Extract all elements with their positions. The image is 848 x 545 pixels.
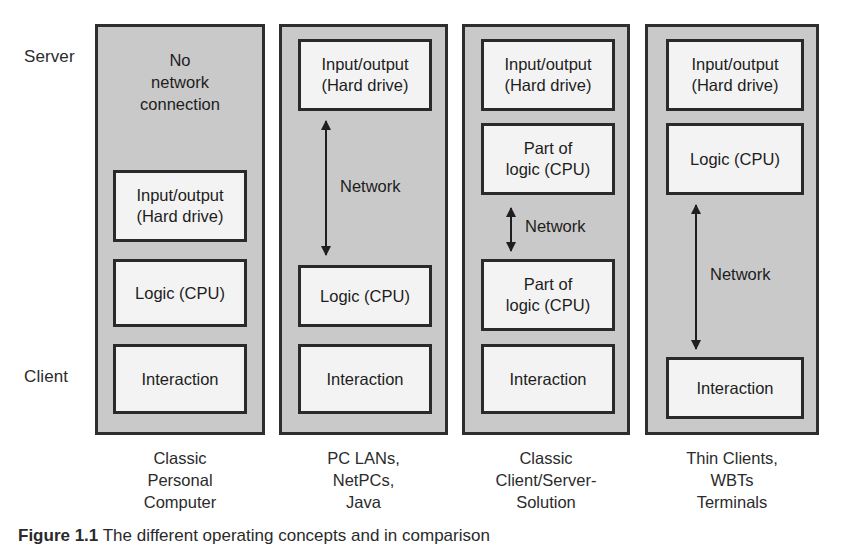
caption-line: PC LANs,	[279, 447, 448, 469]
block-line: Input/output	[504, 54, 591, 75]
block-interaction: Interaction	[113, 344, 247, 414]
block-interaction: Interaction	[298, 344, 432, 414]
block-part-of-logic-cpu-server: Part of logic (CPU)	[481, 123, 615, 195]
block-line: Input/output	[136, 185, 223, 206]
block-part-of-logic-cpu-client: Part of logic (CPU)	[481, 259, 615, 331]
architecture-column-pc-lans-netpcs-java: Input/output (Hard drive) Network Logic …	[279, 24, 448, 435]
caption-line: Client/Server-	[462, 469, 630, 491]
architecture-column-classic-personal-computer: No network connection Input/output (Hard…	[95, 24, 265, 435]
block-line: logic (CPU)	[506, 159, 590, 180]
block-line: Interaction	[509, 369, 586, 390]
column-caption-classic-personal-computer: Classic Personal Computer	[95, 447, 265, 513]
architecture-column-classic-client-server-solution: Input/output (Hard drive) Part of logic …	[462, 24, 630, 435]
arrow-shaft	[325, 121, 327, 255]
architecture-column-thin-clients-wbts-terminals: Input/output (Hard drive) Logic (CPU) Ne…	[645, 24, 819, 435]
diagram-canvas: Server Client No network connection Inpu…	[0, 0, 848, 545]
block-input-output-hard-drive: Input/output (Hard drive)	[113, 170, 247, 242]
network-arrow	[320, 121, 332, 255]
network-arrow	[505, 208, 517, 251]
block-line: Interaction	[141, 369, 218, 390]
network-arrow	[690, 205, 702, 349]
row-label-server: Server	[24, 47, 75, 67]
caption-line: Classic	[462, 447, 630, 469]
caption-line: WBTs	[645, 469, 819, 491]
block-line: Part of	[524, 138, 573, 159]
block-line: No	[98, 49, 262, 71]
arrow-shaft	[695, 205, 697, 349]
block-logic-cpu: Logic (CPU)	[298, 265, 432, 327]
network-arrow-label: Network	[340, 177, 401, 196]
caption-line: Computer	[95, 491, 265, 513]
block-line: (Hard drive)	[691, 75, 778, 96]
column-caption-thin-clients-wbts-terminals: Thin Clients, WBTs Terminals	[645, 447, 819, 513]
caption-line: NetPCs,	[279, 469, 448, 491]
arrow-head-up	[506, 207, 516, 217]
block-line: Logic (CPU)	[320, 286, 410, 307]
block-line: Interaction	[326, 369, 403, 390]
block-line: (Hard drive)	[504, 75, 591, 96]
block-input-output-hard-drive: Input/output (Hard drive)	[481, 39, 615, 111]
block-line: Part of	[524, 274, 573, 295]
block-line: network	[98, 71, 262, 93]
arrow-head-down	[321, 246, 331, 256]
arrow-head-down	[506, 242, 516, 252]
caption-line: Terminals	[645, 491, 819, 513]
block-line: connection	[98, 93, 262, 115]
block-line: Logic (CPU)	[135, 283, 225, 304]
figure-caption-text: The different operating concepts and in …	[103, 526, 490, 545]
row-label-client: Client	[24, 367, 68, 387]
block-input-output-hard-drive: Input/output (Hard drive)	[666, 39, 804, 111]
block-interaction: Interaction	[481, 344, 615, 414]
caption-line: Solution	[462, 491, 630, 513]
block-line: (Hard drive)	[321, 75, 408, 96]
arrow-head-down	[691, 340, 701, 350]
caption-line: Personal	[95, 469, 265, 491]
network-arrow-label: Network	[525, 217, 586, 236]
block-input-output-hard-drive: Input/output (Hard drive)	[298, 39, 432, 111]
arrow-head-up	[321, 120, 331, 130]
block-line: (Hard drive)	[136, 206, 223, 227]
block-line: Logic (CPU)	[690, 149, 780, 170]
arrow-head-up	[691, 204, 701, 214]
block-line: Input/output	[691, 54, 778, 75]
block-no-network-connection: No network connection	[98, 49, 262, 115]
block-line: logic (CPU)	[506, 295, 590, 316]
block-line: Input/output	[321, 54, 408, 75]
block-logic-cpu: Logic (CPU)	[113, 259, 247, 327]
network-arrow-label: Network	[710, 265, 771, 284]
caption-line: Java	[279, 491, 448, 513]
caption-line: Classic	[95, 447, 265, 469]
column-caption-pc-lans-netpcs-java: PC LANs, NetPCs, Java	[279, 447, 448, 513]
figure-number: Figure 1.1	[18, 526, 98, 545]
block-interaction: Interaction	[666, 357, 804, 419]
block-line: Interaction	[696, 378, 773, 399]
caption-line: Thin Clients,	[645, 447, 819, 469]
block-logic-cpu: Logic (CPU)	[666, 123, 804, 195]
column-caption-classic-client-server-solution: Classic Client/Server- Solution	[462, 447, 630, 513]
figure-caption: Figure 1.1 The different operating conce…	[18, 525, 830, 545]
